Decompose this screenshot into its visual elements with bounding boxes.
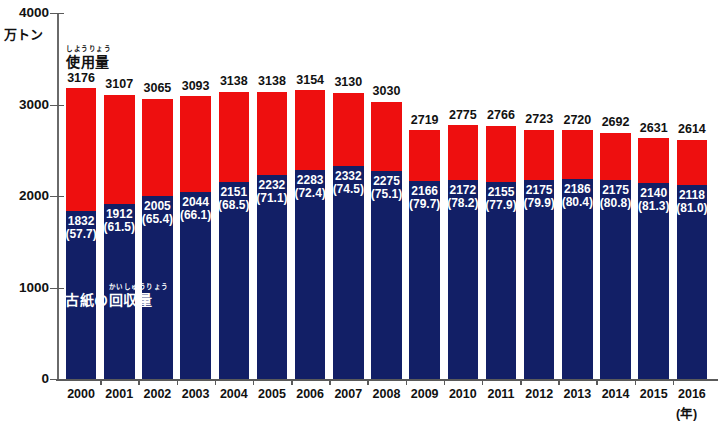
y-axis-unit-label: 万トン: [4, 24, 43, 43]
x-tick-label-2003: 2003: [177, 388, 215, 401]
recovery-amount: 2151: [220, 185, 247, 199]
x-axis-line: [56, 379, 718, 381]
x-tick-label-2001: 2001: [100, 388, 138, 401]
recovery-percent: (65.4): [136, 213, 179, 226]
value-label-usage-2008: 3030: [363, 85, 410, 98]
bar-group-2010: 27752172(78.2): [448, 13, 479, 379]
recovery-percent: (80.4): [556, 196, 599, 209]
y-tick-label-3000: 3000: [5, 98, 49, 112]
x-tick-label-2015: 2015: [635, 388, 673, 401]
x-tick-label-2010: 2010: [444, 388, 482, 401]
x-tick-mark-2014: [596, 380, 598, 385]
bar-group-2013: 27202186(80.4): [562, 13, 593, 379]
value-label-recovery-2001: 1912(61.5): [98, 208, 141, 234]
series-label-recovery: 古紙の かいしゅうりょう 回収量: [65, 292, 152, 308]
recovery-amount: 2175: [526, 183, 553, 197]
x-tick-label-2008: 2008: [367, 388, 405, 401]
x-tick-label-2005: 2005: [253, 388, 291, 401]
value-label-recovery-2008: 2275(75.1): [365, 175, 408, 201]
recovery-percent: (78.2): [442, 197, 485, 210]
x-tick-mark-2007: [329, 380, 331, 385]
x-tick-mark-2009: [406, 380, 408, 385]
value-label-recovery-2007: 2332(74.5): [327, 170, 370, 196]
recovery-amount: 2275: [373, 174, 400, 188]
bar-group-2008: 30302275(75.1): [371, 13, 402, 379]
recovery-percent: (68.5): [213, 199, 256, 212]
bar-group-2011: 27662155(77.9): [486, 13, 517, 379]
bar-segment-recovery-2005: [257, 175, 288, 379]
recovery-amount: 2332: [335, 169, 362, 183]
value-label-recovery-2003: 2044(66.1): [174, 196, 217, 222]
value-label-recovery-2002: 2005(65.4): [136, 200, 179, 226]
recovery-amount: 2166: [411, 184, 438, 198]
recovery-percent: (71.1): [251, 192, 294, 205]
value-label-usage-2016: 2614: [669, 123, 716, 136]
x-tick-mark-2005: [253, 380, 255, 385]
recovery-percent: (74.5): [327, 183, 370, 196]
value-label-recovery-2004: 2151(68.5): [213, 186, 256, 212]
x-tick-mark-2015: [635, 380, 637, 385]
recovery-amount: 1912: [106, 207, 133, 221]
bar-group-2009: 27192166(79.7): [409, 13, 440, 379]
x-tick-label-2000: 2000: [62, 388, 100, 401]
x-tick-label-2016: 2016: [673, 388, 711, 401]
y-tick-label-2000: 2000: [5, 189, 49, 203]
recovery-amount: 2172: [449, 183, 476, 197]
x-tick-label-2012: 2012: [520, 388, 558, 401]
y-tick-label-0: 0: [5, 372, 49, 386]
x-tick-mark-2003: [177, 380, 179, 385]
y-tick-mark-0: [50, 379, 64, 380]
bar-group-2004: 31382151(68.5): [219, 13, 250, 379]
x-tick-mark-2012: [520, 380, 522, 385]
recovery-percent: (75.1): [365, 188, 408, 201]
usage-ruby-text: しようりょう: [66, 46, 110, 53]
value-label-recovery-2000: 1832(57.7): [60, 215, 103, 241]
recovery-amount: 2232: [259, 178, 286, 192]
bar-group-2014: 26922175(80.8): [600, 13, 631, 379]
recovery-amount: 2140: [640, 186, 667, 200]
value-label-recovery-2005: 2232(71.1): [251, 179, 294, 205]
x-tick-label-2004: 2004: [215, 388, 253, 401]
recovery-amount: 2044: [182, 195, 209, 209]
x-tick-label-2009: 2009: [406, 388, 444, 401]
x-tick-mark-2002: [138, 380, 140, 385]
bar-group-2002: 30652005(65.4): [142, 13, 173, 379]
value-label-recovery-2015: 2140(81.3): [632, 187, 675, 213]
value-label-recovery-2012: 2175(79.9): [518, 184, 561, 210]
recovery-ruby-text: かいしゅうりょう: [109, 284, 153, 291]
value-label-recovery-2010: 2172(78.2): [442, 184, 485, 210]
recovery-amount: 2283: [297, 173, 324, 187]
bar-group-2015: 26312140(81.3): [638, 13, 669, 379]
recovery-base-text: 回収量: [109, 292, 153, 308]
bar-segment-recovery-2007: [333, 166, 364, 379]
recovery-amount: 2155: [488, 185, 515, 199]
recovery-prefix-text: 古紙の: [65, 292, 109, 308]
x-tick-label-2011: 2011: [482, 388, 520, 401]
bar-segment-recovery-2006: [295, 170, 326, 379]
recovery-percent: (72.4): [289, 187, 332, 200]
usage-base-text: 使用量: [66, 54, 110, 70]
bar-segment-recovery-2008: [371, 171, 402, 379]
bar-group-2005: 31382232(71.1): [257, 13, 288, 379]
recovery-percent: (80.8): [594, 197, 637, 210]
value-label-recovery-2011: 2155(77.9): [480, 186, 523, 212]
recovery-amount: 2175: [602, 183, 629, 197]
y-tick-label-1000: 1000: [5, 281, 49, 295]
x-tick-mark-2010: [444, 380, 446, 385]
x-tick-label-2013: 2013: [558, 388, 596, 401]
recovery-percent: (79.9): [518, 197, 561, 210]
value-label-recovery-2009: 2166(79.7): [403, 185, 446, 211]
value-label-recovery-2006: 2283(72.4): [289, 174, 332, 200]
bar-group-2012: 27232175(79.9): [524, 13, 555, 379]
recovery-amount: 2186: [564, 182, 591, 196]
x-tick-label-2014: 2014: [596, 388, 634, 401]
x-tick-mark-2004: [215, 380, 217, 385]
bar-group-2007: 31302332(74.5): [333, 13, 364, 379]
x-tick-label-2006: 2006: [291, 388, 329, 401]
x-tick-label-2007: 2007: [329, 388, 367, 401]
x-tick-mark-2001: [100, 380, 102, 385]
value-label-recovery-2014: 2175(80.8): [594, 184, 637, 210]
x-axis-unit-label: (年): [676, 403, 697, 422]
recovery-amount: 2005: [144, 199, 171, 213]
x-tick-mark-2016: [673, 380, 675, 385]
